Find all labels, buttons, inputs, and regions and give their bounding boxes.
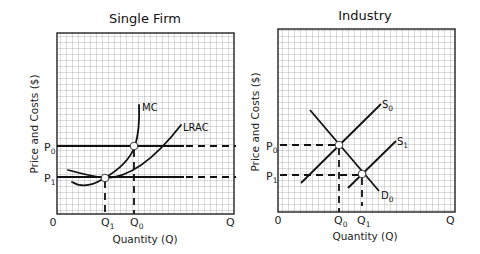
panel-title: Industry bbox=[338, 8, 392, 23]
diagram-canvas: Single Firm Price and Costs ($) MC LRAC … bbox=[0, 0, 480, 254]
origin-label: 0 bbox=[275, 214, 282, 227]
equilibrium-point-initial bbox=[335, 141, 343, 149]
lrac-label: LRAC bbox=[183, 122, 209, 133]
q0-tick-label: Q0 bbox=[334, 214, 348, 229]
mc-label: MC bbox=[142, 102, 158, 113]
equilibrium-point-long-run bbox=[101, 174, 109, 182]
grid bbox=[278, 29, 455, 212]
q1-tick-label: Q1 bbox=[357, 214, 371, 229]
equilibrium-point-short-run bbox=[130, 142, 138, 150]
p1-tick-label: P1 bbox=[44, 172, 56, 187]
x-axis-label: Quantity (Q) bbox=[112, 233, 177, 245]
q-axis-end-label: Q bbox=[226, 216, 235, 229]
panel-title: Single Firm bbox=[109, 11, 181, 26]
p0-tick-label: P0 bbox=[266, 140, 278, 155]
q0-tick-label: Q0 bbox=[130, 216, 144, 231]
p0-tick-label: P0 bbox=[44, 141, 56, 156]
x-axis-label: Quantity (Q) bbox=[332, 230, 397, 242]
y-axis-label: Price and Costs ($) bbox=[28, 74, 40, 173]
origin-label: 0 bbox=[50, 216, 57, 229]
industry-panel: Industry Price and Costs ($) S0 S1 D0 P0… bbox=[249, 8, 455, 242]
equilibrium-point-new bbox=[358, 170, 366, 178]
p1-tick-label: P1 bbox=[266, 170, 278, 185]
q1-tick-label: Q1 bbox=[101, 216, 115, 231]
q-axis-end-label: Q bbox=[446, 214, 455, 227]
y-axis-label: Price and Costs ($) bbox=[249, 72, 261, 171]
single-firm-panel: Single Firm Price and Costs ($) MC LRAC … bbox=[28, 11, 236, 245]
